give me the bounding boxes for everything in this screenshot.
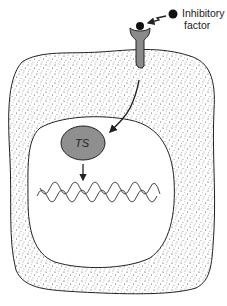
bound-ligand-dot <box>136 22 144 30</box>
inhibitory-factor-label-line1: Inhibitory <box>182 7 225 19</box>
ts-label: TS <box>75 137 90 149</box>
cell-diagram: Inhibitory factor TS <box>0 0 227 306</box>
inhibitory-factor-dot <box>169 10 178 19</box>
inhibitory-factor-label-line2: factor <box>184 19 211 31</box>
binding-arrow <box>148 16 166 23</box>
